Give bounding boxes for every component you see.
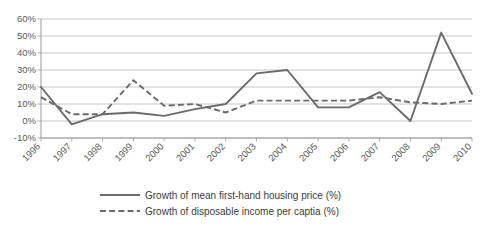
- y-axis-tick-label: 20%: [17, 81, 37, 92]
- y-axis-tick-label: 10%: [17, 98, 37, 109]
- y-axis-tick-label: 30%: [17, 64, 37, 75]
- chart-container: 60%50%40%30%20%10%0%-10% 199619971998199…: [0, 0, 482, 226]
- y-axis-tick-label: 50%: [17, 30, 37, 41]
- legend-label: Growth of disposable income per captia (…: [145, 206, 339, 217]
- line-chart: 60%50%40%30%20%10%0%-10% 199619971998199…: [0, 0, 482, 226]
- legend-label: Growth of mean first-hand housing price …: [145, 190, 341, 201]
- y-axis-tick-label: 40%: [17, 47, 37, 58]
- y-axis-tick-label: 0%: [22, 115, 36, 126]
- y-axis-tick-label: 60%: [17, 13, 37, 24]
